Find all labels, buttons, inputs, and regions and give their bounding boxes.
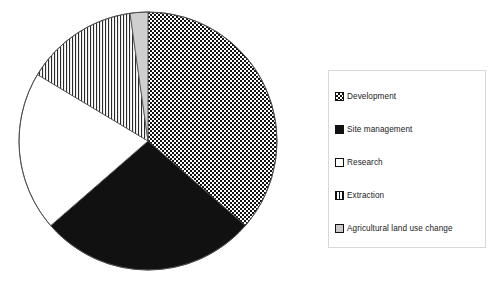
chart-legend: Development Site management Research Ext…	[328, 70, 486, 248]
legend-label: Research	[347, 158, 383, 167]
pie-chart-plot-area	[0, 0, 300, 284]
legend-label: Development	[347, 92, 396, 101]
legend-item-extraction[interactable]: Extraction	[329, 179, 485, 212]
vertical-stripe-swatch-icon	[335, 191, 344, 200]
legend-label: Site management	[347, 125, 412, 134]
legend-label: Agricultural land use change	[347, 224, 453, 233]
legend-label: Extraction	[347, 191, 384, 200]
pie-slices-group	[19, 12, 277, 270]
legend-item-development[interactable]: Development	[329, 80, 485, 113]
checkerboard-swatch-icon	[335, 92, 344, 101]
light-gray-swatch-icon	[335, 224, 344, 233]
legend-item-site-management[interactable]: Site management	[329, 113, 485, 146]
legend-item-research[interactable]: Research	[329, 146, 485, 179]
legend-item-agricultural-land-use-change[interactable]: Agricultural land use change	[329, 212, 485, 245]
empty-white-swatch-icon	[335, 158, 344, 167]
pie-chart-figure: Development Site management Research Ext…	[0, 0, 497, 284]
solid-black-swatch-icon	[335, 125, 344, 134]
pie-chart-svg	[0, 0, 300, 284]
